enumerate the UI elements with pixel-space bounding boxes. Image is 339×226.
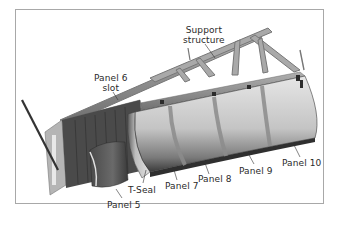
label-line: structure [183, 35, 225, 45]
label-panel-10: Panel 10 [282, 158, 321, 168]
label-panel-9: Panel 9 [239, 166, 273, 176]
label-t-seal: T-Seal [128, 185, 156, 195]
label-line: Support [183, 25, 225, 35]
label-line: Panel 6 [94, 73, 128, 83]
label-panel-7: Panel 7 [165, 181, 199, 191]
label-support-structure: Support structure [183, 25, 225, 45]
label-line: slot [94, 83, 128, 93]
label-panel6-slot: Panel 6 slot [94, 73, 128, 93]
label-panel-8: Panel 8 [198, 174, 232, 184]
assembly-rendering [0, 0, 339, 226]
label-panel-5: Panel 5 [107, 200, 141, 210]
